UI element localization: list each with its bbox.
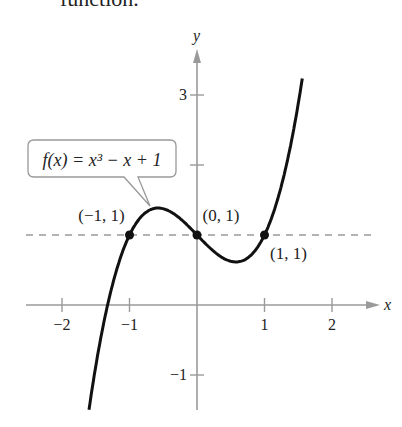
cubic-function-chart: xy−2−112−13(−1, 1)(0, 1)(1, 1)f(x) = x³ …: [0, 0, 402, 427]
x-tick-label: −1: [121, 316, 138, 333]
y-axis-label: y: [191, 27, 201, 45]
x-axis-label: x: [383, 296, 391, 313]
point-marker: [193, 231, 202, 240]
function-label: f(x) = x³ − x + 1: [43, 150, 162, 171]
y-axis-arrow-icon: [193, 49, 201, 63]
x-tick-label: 2: [328, 316, 336, 333]
y-tick-label: −1: [170, 366, 187, 383]
point-marker: [125, 231, 134, 240]
point-label: (0, 1): [203, 206, 240, 225]
y-tick-label: 3: [179, 86, 187, 103]
x-tick-label: −2: [53, 316, 70, 333]
point-marker: [260, 231, 269, 240]
point-label: (1, 1): [270, 244, 307, 263]
point-label: (−1, 1): [78, 206, 124, 225]
x-tick-label: 1: [261, 316, 269, 333]
x-axis-arrow-icon: [366, 301, 380, 309]
